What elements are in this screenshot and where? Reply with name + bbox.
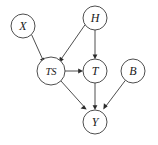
- node-ts-label: TS: [45, 66, 57, 77]
- edge-ts-to-y-arrowhead: [81, 105, 87, 109]
- edge-h-to-t-arrowhead: [93, 54, 98, 59]
- node-group: X H TS T B Y: [11, 6, 145, 134]
- edge-x-to-ts-line: [32, 35, 44, 61]
- node-h-label: H: [90, 11, 101, 25]
- edge-t-to-y: [93, 83, 98, 110]
- node-x-label: X: [18, 19, 27, 33]
- edge-t-to-y-arrowhead: [93, 105, 98, 110]
- edge-ts-to-t-arrowhead: [78, 69, 83, 74]
- edge-b-to-y-line: [106, 80, 126, 106]
- node-t[interactable]: T: [83, 59, 107, 83]
- node-b-label: B: [129, 64, 137, 78]
- edge-ts-to-t: [65, 69, 83, 74]
- edge-ts-to-y-line: [61, 81, 84, 107]
- edge-b-to-y: [103, 80, 125, 109]
- edge-ts-to-y: [61, 81, 87, 110]
- node-y[interactable]: Y: [83, 110, 107, 134]
- node-b[interactable]: B: [121, 59, 145, 83]
- edge-h-to-t: [93, 30, 98, 59]
- edge-h-to-ts-line: [61, 25, 85, 60]
- dag-figure: X H TS T B Y: [0, 0, 158, 145]
- dag-canvas: X H TS T B Y: [0, 0, 158, 145]
- node-x[interactable]: X: [11, 14, 35, 38]
- node-h[interactable]: H: [83, 6, 107, 30]
- edge-h-to-ts: [59, 25, 85, 63]
- node-ts[interactable]: TS: [37, 57, 65, 85]
